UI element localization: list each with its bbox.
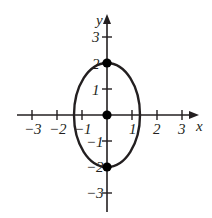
y-tick-label-neg2: −2 [86, 160, 104, 175]
y-tick-label-neg3: −3 [86, 186, 104, 201]
y-tick-label-pos3: 3 [92, 30, 100, 45]
x-tick-label-neg3: −3 [24, 122, 42, 137]
x-tick-label-pos1: 1 [129, 122, 137, 137]
x-axis-label: x [196, 119, 203, 134]
y-tick-label-neg1: −1 [86, 135, 104, 150]
coordinate-plane-svg [0, 0, 212, 218]
x-tick-label-neg2: −2 [49, 122, 67, 137]
point-top-vertex [102, 58, 111, 67]
y-tick-label-pos1: 1 [92, 83, 100, 98]
point-origin [102, 110, 111, 119]
x-tick-label-pos2: 2 [153, 122, 161, 137]
y-axis-arrowhead-icon [103, 14, 111, 24]
y-tick-label-pos2: 2 [92, 57, 100, 72]
y-axis-label: y [96, 13, 103, 28]
graph-figure: −3 −2 −1 1 2 3 3 2 1 −1 −2 −3 x y [0, 0, 212, 218]
x-tick-label-pos3: 3 [178, 122, 186, 137]
